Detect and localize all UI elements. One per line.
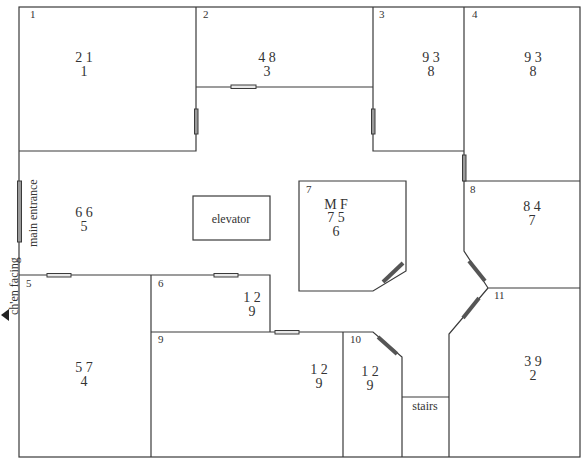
room-1-number: 1 [30, 8, 36, 20]
room-5-number: 5 [26, 277, 32, 289]
room-7-number: 7 [306, 183, 312, 195]
door-room-6[interactable] [214, 274, 238, 278]
room-9-10-walls [151, 332, 402, 457]
room-3-code-bottom: 8 [428, 64, 435, 79]
room-4-number: 4 [472, 8, 478, 20]
room-3-code-top: 9 3 [422, 50, 440, 65]
room-1-walls [19, 7, 196, 151]
facing-arrow-icon [1, 309, 9, 321]
door-room-8[interactable] [469, 261, 485, 281]
room-9-number: 9 [158, 333, 164, 345]
hall-code-top: 6 6 [75, 205, 93, 220]
stairs-label: stairs [412, 399, 438, 413]
room-8-code-bottom: 7 [529, 213, 536, 228]
room-2-code-bottom: 3 [264, 64, 271, 79]
room-5-code-bottom: 4 [81, 374, 88, 389]
room-2-number: 2 [203, 8, 209, 20]
hall-code-bottom: 5 [81, 219, 88, 234]
facing-label: ch'en facing [7, 257, 21, 315]
room-1-code-top: 2 1 [75, 50, 93, 65]
room-9-code-bottom: 9 [316, 376, 323, 391]
room-10-number: 10 [350, 333, 362, 345]
room-8-number: 8 [470, 183, 476, 195]
floor-plan: 1 2 3 4 5 6 7 8 9 10 11 2 1 1 4 8 3 9 3 … [0, 0, 587, 467]
room-3-walls [373, 7, 464, 151]
room-1-code-bottom: 1 [81, 64, 88, 79]
room-3-number: 3 [379, 8, 385, 20]
room-11-code-bottom: 2 [530, 368, 537, 383]
room-6-code-bottom: 9 [249, 304, 256, 319]
room-5-6-walls [19, 275, 270, 332]
room-4-walls [464, 7, 580, 181]
room-7-code-top: 7 5 [327, 210, 345, 225]
door-room-11[interactable] [463, 298, 479, 318]
main-entrance-label: main entrance [26, 179, 40, 247]
elevator-label: elevator [212, 212, 251, 226]
door-room-4[interactable] [463, 155, 467, 181]
room-6-code-top: 1 2 [243, 290, 261, 305]
door-room-10[interactable] [378, 337, 397, 354]
room-4-code-top: 9 3 [524, 50, 542, 65]
room-10-code-top: 1 2 [361, 364, 379, 379]
door-room-5[interactable] [47, 274, 71, 278]
room-11-code-top: 3 9 [524, 354, 542, 369]
room-9-code-top: 1 2 [310, 362, 328, 377]
room-11-number: 11 [494, 289, 505, 301]
room-8-code-top: 8 4 [523, 199, 541, 214]
room-5-code-top: 5 7 [75, 360, 93, 375]
room-6-number: 6 [158, 277, 164, 289]
door-room-2-side[interactable] [372, 109, 376, 134]
room-2-code-top: 4 8 [258, 50, 276, 65]
room-4-code-bottom: 8 [530, 64, 537, 79]
door-main-entrance[interactable] [18, 181, 22, 242]
room-7-code-bottom: 6 [333, 224, 340, 239]
room-8-walls [464, 181, 580, 288]
door-room-1[interactable] [195, 109, 199, 134]
room-10-code-bottom: 9 [367, 378, 374, 393]
door-room-2[interactable] [231, 85, 256, 89]
door-room-9[interactable] [275, 331, 299, 335]
